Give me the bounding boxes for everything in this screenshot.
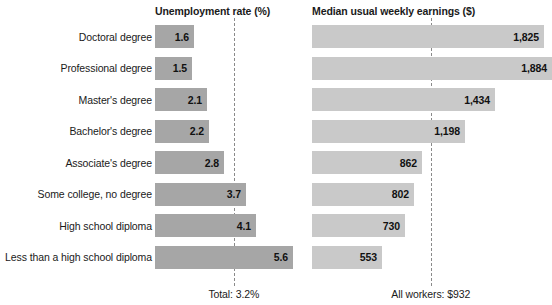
- bar-earnings: 1,825: [312, 25, 544, 48]
- category-label: Master's degree: [2, 94, 152, 106]
- category-label: Some college, no degree: [2, 188, 152, 200]
- bar-value-label: 1,198: [434, 125, 465, 137]
- chart-figure: Unemployment rate (%) Median usual weekl…: [0, 0, 552, 305]
- bar-value-label: 3.7: [227, 188, 246, 200]
- bar-earnings: 730: [312, 214, 405, 237]
- bar-unemployment: 5.6: [155, 246, 293, 269]
- bar-value-label: 553: [360, 251, 382, 263]
- bar-value-label: 5.6: [274, 251, 293, 263]
- bar-unemployment: 2.1: [155, 88, 207, 111]
- bar-value-label: 1,434: [464, 94, 495, 106]
- category-label: Less than a high school diploma: [2, 251, 152, 263]
- footnote-all-workers-earnings: All workers: $932: [391, 288, 470, 300]
- panel-header-unemployment: Unemployment rate (%): [155, 5, 270, 17]
- bar-value-label: 1,884: [521, 62, 552, 74]
- category-label: Doctoral degree: [2, 31, 152, 43]
- bar-value-label: 862: [400, 157, 422, 169]
- category-label: Professional degree: [2, 62, 152, 74]
- bar-unemployment: 1.5: [155, 57, 192, 80]
- panel-header-earnings: Median usual weekly earnings ($): [312, 5, 475, 17]
- bar-earnings: 862: [312, 151, 422, 174]
- category-label: High school diploma: [2, 220, 152, 232]
- bar-value-label: 1.5: [173, 62, 192, 74]
- category-label: Associate's degree: [2, 157, 152, 169]
- bar-value-label: 730: [383, 220, 405, 232]
- bar-unemployment: 3.7: [155, 183, 246, 206]
- footnote-total-unemployment: Total: 3.2%: [208, 288, 259, 300]
- bar-value-label: 802: [392, 188, 414, 200]
- bar-value-label: 1,825: [513, 31, 544, 43]
- bar-earnings: 1,884: [312, 57, 552, 80]
- bar-earnings: 553: [312, 246, 382, 269]
- bar-earnings: 802: [312, 183, 414, 206]
- bar-earnings: 1,198: [312, 120, 465, 143]
- bar-value-label: 4.1: [237, 220, 256, 232]
- bar-value-label: 2.2: [190, 125, 209, 137]
- bar-value-label: 2.8: [205, 157, 224, 169]
- category-label: Bachelor's degree: [2, 125, 152, 137]
- bar-unemployment: 1.6: [155, 25, 194, 48]
- bar-unemployment: 2.2: [155, 120, 209, 143]
- bar-earnings: 1,434: [312, 88, 495, 111]
- bar-unemployment: 2.8: [155, 151, 224, 174]
- bar-value-label: 2.1: [188, 94, 207, 106]
- bar-value-label: 1.6: [175, 31, 194, 43]
- bar-unemployment: 4.1: [155, 214, 256, 237]
